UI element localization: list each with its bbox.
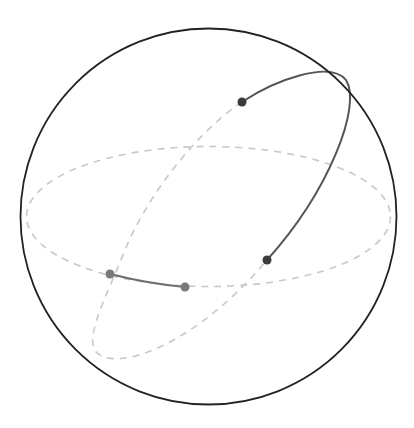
sphere-outline: [21, 29, 397, 405]
point-back-left: [106, 270, 115, 279]
tilted-great-circle-hidden-arc: [93, 102, 267, 359]
back-arc-segment: [110, 274, 185, 287]
point-back-middle: [181, 283, 190, 292]
sphere-diagram: [0, 0, 414, 428]
tilted-great-circle-front-arc: [242, 72, 350, 260]
point-front-right: [263, 256, 272, 265]
point-front-top: [238, 98, 247, 107]
equator-dashed-ellipse: [27, 147, 391, 287]
